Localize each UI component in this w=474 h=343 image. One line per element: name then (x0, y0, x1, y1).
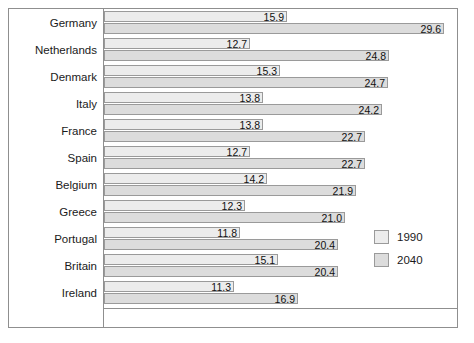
bar-2040: 20.4 (104, 266, 338, 277)
legend-item: 2040 (374, 250, 450, 269)
bar-value-label: 24.2 (359, 104, 379, 115)
bar-1990: 13.8 (104, 92, 263, 103)
bar-value-label: 15.1 (255, 254, 275, 265)
bar-2040: 22.7 (104, 131, 365, 142)
bar-value-label: 21.0 (322, 212, 342, 223)
bar-2040: 22.7 (104, 158, 365, 169)
bar-value-label: 22.7 (342, 131, 362, 142)
chart-row: Denmark15.324.7 (9, 64, 459, 91)
bar-value-label: 13.8 (240, 92, 260, 103)
bar-pair: 11.316.9 (104, 281, 458, 306)
category-label: Spain (9, 145, 97, 172)
bar-value-label: 20.4 (315, 266, 335, 277)
bar-2040: 16.9 (104, 293, 298, 304)
category-label: Belgium (9, 172, 97, 199)
bar-value-label: 15.3 (257, 65, 277, 76)
bar-value-label: 24.8 (366, 50, 386, 61)
category-label: Denmark (9, 64, 97, 91)
chart-row: Belgium14.221.9 (9, 172, 459, 199)
bar-1990: 11.3 (104, 281, 234, 292)
bar-2040: 29.6 (104, 23, 444, 34)
bar-pair: 13.824.2 (104, 92, 458, 117)
bar-pair: 12.321.0 (104, 200, 458, 225)
bar-value-label: 11.3 (211, 281, 231, 292)
bar-value-label: 29.6 (421, 23, 441, 34)
chart-legend: 19902040 (374, 227, 450, 273)
bar-value-label: 13.8 (240, 119, 260, 130)
bar-2040: 24.8 (104, 50, 389, 61)
legend-label: 2040 (397, 254, 423, 266)
bar-1990: 15.3 (104, 65, 280, 76)
bar-value-label: 16.9 (275, 293, 295, 304)
category-label: Germany (9, 10, 97, 37)
bar-1990: 12.7 (104, 146, 250, 157)
chart-row: Greece12.321.0 (9, 199, 459, 226)
bar-value-label: 12.7 (227, 38, 247, 49)
legend-swatch-icon (374, 253, 389, 267)
bar-value-label: 14.2 (244, 173, 264, 184)
chart-frame: Germany15.929.6Netherlands12.724.8Denmar… (8, 8, 458, 328)
bar-1990: 15.9 (104, 11, 287, 22)
chart-row: France13.822.7 (9, 118, 459, 145)
chart-row: Spain12.722.7 (9, 145, 459, 172)
chart-row: Germany15.929.6 (9, 10, 459, 37)
bar-2040: 24.2 (104, 104, 382, 115)
bar-1990: 14.2 (104, 173, 267, 184)
bar-2040: 21.0 (104, 212, 345, 223)
bar-pair: 15.929.6 (104, 11, 458, 36)
plot-area: Germany15.929.6Netherlands12.724.8Denmar… (9, 9, 457, 327)
chart-row: Italy13.824.2 (9, 91, 459, 118)
bar-pair: 12.724.8 (104, 38, 458, 63)
category-label: France (9, 118, 97, 145)
bar-value-label: 11.8 (217, 227, 237, 238)
category-label: Ireland (9, 280, 97, 307)
bar-1990: 12.7 (104, 38, 250, 49)
legend-label: 1990 (397, 231, 423, 243)
legend-swatch-icon (374, 230, 389, 244)
bar-2040: 20.4 (104, 239, 338, 250)
bar-value-label: 24.7 (365, 77, 385, 88)
category-label: Britain (9, 253, 97, 280)
bar-value-label: 22.7 (342, 158, 362, 169)
bar-1990: 13.8 (104, 119, 263, 130)
legend-item: 1990 (374, 227, 450, 246)
chart-row: Netherlands12.724.8 (9, 37, 459, 64)
bar-pair: 12.722.7 (104, 146, 458, 171)
bar-value-label: 21.9 (333, 185, 353, 196)
bar-pair: 14.221.9 (104, 173, 458, 198)
chart-row: Ireland11.316.9 (9, 280, 459, 307)
bar-1990: 15.1 (104, 254, 278, 265)
category-label: Portugal (9, 226, 97, 253)
baseline-axis (103, 308, 458, 309)
bar-1990: 12.3 (104, 200, 245, 211)
category-label: Italy (9, 91, 97, 118)
bar-value-label: 20.4 (315, 239, 335, 250)
bar-value-label: 12.7 (227, 146, 247, 157)
bar-2040: 24.7 (104, 77, 388, 88)
bar-1990: 11.8 (104, 227, 240, 238)
category-label: Netherlands (9, 37, 97, 64)
bar-pair: 15.324.7 (104, 65, 458, 90)
category-label: Greece (9, 199, 97, 226)
bar-value-label: 15.9 (264, 11, 284, 22)
bar-pair: 13.822.7 (104, 119, 458, 144)
bar-2040: 21.9 (104, 185, 356, 196)
bar-value-label: 12.3 (222, 200, 242, 211)
